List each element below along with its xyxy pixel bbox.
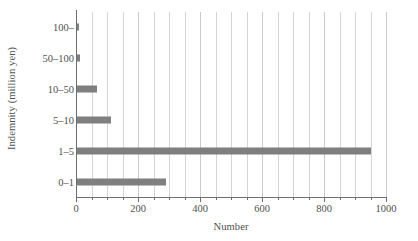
x-axis-major-tick [76,197,77,202]
y-axis-tick-label: 50–100 [22,53,74,64]
x-axis-major-tick [324,197,325,202]
bar [77,55,80,62]
bar [77,86,97,93]
x-axis-major-tick [386,197,387,202]
x-axis-minor-tick [107,197,108,200]
x-axis-minor-tick [340,197,341,200]
x-axis-tick-label: 200 [130,203,146,214]
bar [77,178,166,185]
x-axis-tick-label: 1000 [376,203,397,214]
x-axis-minor-tick [278,197,279,200]
gridline [355,12,356,197]
y-axis-tick-label: 100– [22,22,74,33]
gridline [293,12,294,197]
y-axis-tick-label: 1–5 [22,145,74,156]
horizontal-bar-chart: Indemnity (million yen) 100–50–10010–505… [0,0,418,241]
bar [77,116,111,123]
x-axis-major-tick [262,197,263,202]
gridline [309,12,310,197]
gridline [92,12,93,197]
gridline [386,12,387,197]
x-axis-tick-label-group: 02004006008001000 [0,203,418,219]
gridline [262,12,263,197]
y-axis-title: Indemnity (million yen) [0,0,22,197]
x-axis-minor-tick [309,197,310,200]
gridline [231,12,232,197]
gridline [247,12,248,197]
x-axis-tick-label: 400 [192,203,208,214]
x-axis-minor-tick [123,197,124,200]
x-axis-tick-label: 600 [254,203,270,214]
x-axis-minor-tick [371,197,372,200]
x-axis-minor-tick [231,197,232,200]
y-axis-line [76,10,77,197]
x-axis-major-tick [138,197,139,202]
x-axis-minor-tick [92,197,93,200]
x-axis-tick-label: 0 [73,203,78,214]
bar [77,24,79,31]
gridline [185,12,186,197]
gridline [107,12,108,197]
y-axis-tick-label: 0–1 [22,176,74,187]
x-axis-minor-tick [293,197,294,200]
gridline [371,12,372,197]
x-axis-minor-tick [247,197,248,200]
x-axis-minor-tick [216,197,217,200]
x-axis-title: Number [76,221,386,232]
x-axis-major-tick [200,197,201,202]
x-axis-minor-tick [154,197,155,200]
x-axis-minor-tick [169,197,170,200]
x-axis-minor-tick [185,197,186,200]
bar [77,147,371,154]
plot-area [76,12,386,197]
gridline [154,12,155,197]
gridline [123,12,124,197]
x-axis-minor-tick [355,197,356,200]
x-axis-tick-label: 800 [316,203,332,214]
gridline [169,12,170,197]
gridline [278,12,279,197]
gridline [216,12,217,197]
gridline [138,12,139,197]
y-axis-tick-label: 10–50 [22,84,74,95]
gridline [200,12,201,197]
gridline [324,12,325,197]
gridline [340,12,341,197]
y-axis-tick-label: 5–10 [22,114,74,125]
y-axis-tick-label-group: 100–50–10010–505–101–50–1 [22,12,74,197]
